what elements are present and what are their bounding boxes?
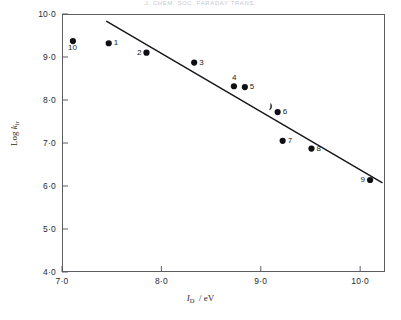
y-axis-tick-label: 6·0	[30, 181, 56, 191]
data-point-label: 7	[288, 136, 293, 145]
data-point-label: 9	[360, 175, 365, 184]
data-point-marker	[280, 138, 286, 144]
data-point-label: 1	[114, 38, 119, 47]
fit-line-group	[107, 21, 382, 182]
data-point-marker	[367, 177, 373, 183]
plot-overlay	[0, 0, 401, 320]
x-axis-tick-label: 9·0	[244, 276, 278, 286]
data-points-group	[70, 38, 373, 183]
x-axis-tick-label: 8·0	[144, 276, 178, 286]
arrow-tick-mark-icon	[270, 103, 272, 110]
data-point-label: 8	[316, 144, 321, 153]
y-axis-tick-label: 5·0	[30, 224, 56, 234]
figure-container: J. CHEM. SOC. FARADAY TRANS. 4·05·06·07·…	[0, 0, 401, 320]
x-axis-tick-label: 10·0	[343, 276, 377, 286]
x-axis-title-units: / eV	[199, 293, 214, 303]
y-axis-tick-label: 9·0	[30, 52, 56, 62]
data-point-marker	[308, 145, 314, 151]
x-axis-title: ID / eV	[0, 293, 401, 304]
data-point-marker	[106, 40, 112, 46]
data-point-label: 4	[232, 73, 237, 82]
x-axis-tick-label: 7·0	[45, 276, 79, 286]
y-axis-title-symbol: k	[9, 125, 19, 129]
annotation-group	[270, 103, 272, 110]
data-point-label: 5	[250, 82, 255, 91]
y-axis-title-subscript: ir	[13, 121, 20, 125]
data-point-marker	[231, 83, 237, 89]
y-axis-title: Log kir	[9, 104, 20, 164]
data-point-label: 10	[68, 43, 77, 52]
data-point-marker	[242, 84, 248, 90]
data-point-label: 2	[137, 48, 142, 57]
y-axis-title-prefix: Log	[9, 131, 19, 146]
data-point-marker	[191, 59, 197, 65]
y-axis-tick-label: 10·0	[30, 9, 56, 19]
data-point-marker	[275, 109, 281, 115]
data-point-label: 6	[283, 107, 288, 116]
fit-line	[107, 21, 382, 182]
data-point-marker	[143, 50, 149, 56]
data-point-label: 3	[199, 58, 204, 67]
y-axis-tick-label: 8·0	[30, 95, 56, 105]
y-axis-tick-label: 7·0	[30, 138, 56, 148]
